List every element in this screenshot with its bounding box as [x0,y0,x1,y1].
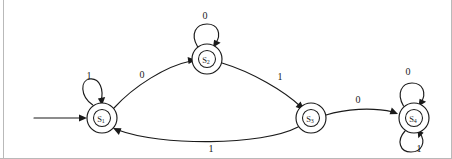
transition-label-s2-to-s3: 1 [278,71,283,82]
self-loop-label-s1: 1 [87,70,92,81]
state-machine-diagram: 0 1 1 0 1 0 [0,0,452,159]
transition-label-s3-to-s4: 0 [356,94,361,105]
transition-s3-to-s1 [113,127,298,142]
state-node-s4[interactable]: S4 [399,103,429,133]
transition-s3-to-s4 [326,107,398,115]
state-node-s3[interactable]: S3 [296,103,326,133]
transition-s1-to-s2 [114,57,196,108]
self-loop-label-s2: 0 [203,10,208,21]
start-arrow [34,114,87,121]
diagram-canvas: 0 1 1 0 1 0 [0,0,452,159]
state-node-s1[interactable]: S1 [87,103,117,133]
transition-s2-to-s3 [222,63,304,110]
self-loop-label-s4-top: 0 [406,66,411,77]
self-loop-label-s4-bottom: 1 [417,143,422,154]
self-loop-s1 [83,79,105,106]
transition-label-s1-to-s2: 0 [140,69,145,80]
transition-label-s3-to-s1: 1 [209,143,214,154]
state-node-s2[interactable]: S2 [192,44,222,74]
